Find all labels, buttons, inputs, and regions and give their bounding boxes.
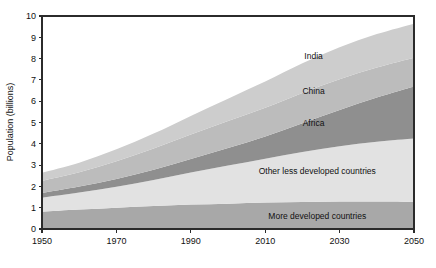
population-stacked-area-chart: 012345678910195019701990201020302050 Mor… bbox=[0, 0, 436, 268]
y-axis-title: Population (billions) bbox=[5, 83, 15, 162]
series-label-more-developed-countries: More developed countries bbox=[268, 211, 366, 221]
y-tick-label: 0 bbox=[31, 224, 36, 234]
x-tick-label: 2050 bbox=[404, 236, 424, 246]
y-tick-label: 5 bbox=[31, 118, 36, 128]
x-tick-label: 2010 bbox=[255, 236, 275, 246]
x-tick-label: 1970 bbox=[106, 236, 126, 246]
y-tick-label: 7 bbox=[31, 75, 36, 85]
series-label-china: China bbox=[302, 86, 324, 96]
y-tick-label: 2 bbox=[31, 182, 36, 192]
series-label-other-less-developed-countries: Other less developed countries bbox=[259, 166, 376, 176]
y-tick-label: 8 bbox=[31, 54, 36, 64]
y-tick-label: 9 bbox=[31, 33, 36, 43]
y-tick-label: 6 bbox=[31, 96, 36, 106]
series-label-india: India bbox=[304, 51, 323, 61]
x-tick-label: 1990 bbox=[181, 236, 201, 246]
x-tick-label: 2030 bbox=[330, 236, 350, 246]
chart-canvas: 012345678910195019701990201020302050 Mor… bbox=[0, 0, 436, 268]
series-label-africa: Africa bbox=[303, 118, 325, 128]
y-tick-label: 1 bbox=[31, 203, 36, 213]
x-tick-label: 1950 bbox=[32, 236, 52, 246]
y-tick-label: 4 bbox=[31, 139, 36, 149]
y-tick-label: 3 bbox=[31, 160, 36, 170]
y-tick-label: 10 bbox=[26, 11, 36, 21]
